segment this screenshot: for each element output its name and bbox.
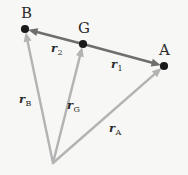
point-label-G: G xyxy=(78,21,90,36)
vector-symbol-rA: r xyxy=(109,121,115,135)
vector-subscript-r2: 2 xyxy=(58,48,63,57)
point-label-B: B xyxy=(21,6,32,21)
point-marker-B xyxy=(21,25,29,33)
vector-arrowhead-r1 xyxy=(151,59,161,67)
point-marker-G xyxy=(79,40,87,48)
vector-subscript-rB: B xyxy=(26,99,32,108)
vector-subscript-rA: A xyxy=(116,128,122,137)
vector-label-r2: r2 xyxy=(51,43,63,57)
vector-label-rG: rG xyxy=(67,100,80,114)
point-marker-A xyxy=(160,62,168,70)
vector-label-r1: r1 xyxy=(111,59,123,73)
vector-label-rB: rB xyxy=(19,94,31,108)
vector-symbol-r2: r xyxy=(51,41,57,55)
vector-arrowhead-rG xyxy=(76,47,84,57)
vector-subscript-r1: 1 xyxy=(118,64,123,73)
vector-symbol-rG: r xyxy=(67,98,73,112)
vector-arrowhead-r2 xyxy=(28,28,38,36)
vector-lines-group xyxy=(24,28,162,163)
vector-symbol-rB: r xyxy=(19,92,25,106)
vector-diagram-figure: B G A r2 r1 rB rG rA xyxy=(0,0,188,175)
point-label-A: A xyxy=(159,43,170,58)
vector-label-rA: rA xyxy=(109,123,121,137)
vector-diagram-canvas xyxy=(0,0,188,175)
vector-shaft-rA xyxy=(53,73,156,163)
vector-arrowhead-rB xyxy=(24,32,32,42)
vector-subscript-rG: G xyxy=(74,105,80,114)
vector-symbol-r1: r xyxy=(111,57,117,71)
